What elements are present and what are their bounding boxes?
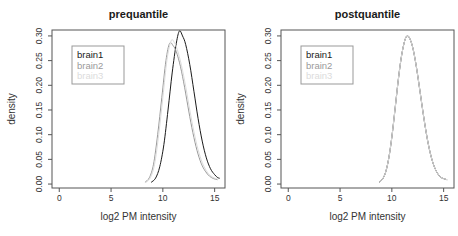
chart-title: prequantile <box>109 8 168 20</box>
legend-label-brain1: brain1 <box>77 49 103 60</box>
legend-label-brain2: brain2 <box>306 60 332 71</box>
y-tick-label: 0.10 <box>263 126 273 143</box>
panel-postquantile: postquantile0510150.000.050.100.150.200.… <box>229 0 458 236</box>
legend-label-brain3: brain3 <box>306 70 332 81</box>
postquantile-chart: postquantile0510150.000.050.100.150.200.… <box>229 0 458 236</box>
y-tick-label: 0.25 <box>263 52 273 69</box>
panel-prequantile: prequantile0510150.000.050.100.150.200.2… <box>0 0 229 236</box>
y-tick-label: 0.10 <box>34 126 44 143</box>
x-tick-label: 15 <box>439 193 449 203</box>
y-tick-label: 0.20 <box>34 77 44 94</box>
x-tick-label: 0 <box>286 193 291 203</box>
y-tick-label: 0.15 <box>34 101 44 118</box>
y-axis-label: density <box>235 93 246 125</box>
y-tick-label: 0.00 <box>34 176 44 193</box>
legend-label-brain2: brain2 <box>77 60 103 71</box>
y-tick-label: 0.30 <box>263 27 273 44</box>
x-tick-label: 0 <box>57 193 62 203</box>
y-tick-label: 0.00 <box>263 176 273 193</box>
density-figure: prequantile0510150.000.050.100.150.200.2… <box>0 0 458 236</box>
y-tick-label: 0.25 <box>34 52 44 69</box>
x-tick-label: 10 <box>387 193 397 203</box>
density-curve-brain2 <box>379 36 446 182</box>
y-tick-label: 0.05 <box>263 151 273 168</box>
x-tick-label: 5 <box>109 193 114 203</box>
y-tick-label: 0.20 <box>263 77 273 94</box>
prequantile-chart: prequantile0510150.000.050.100.150.200.2… <box>0 0 229 236</box>
y-axis-label: density <box>6 93 17 125</box>
x-tick-label: 5 <box>338 193 343 203</box>
legend-label-brain3: brain3 <box>77 70 103 81</box>
y-tick-label: 0.30 <box>34 27 44 44</box>
x-tick-label: 10 <box>158 193 168 203</box>
y-tick-label: 0.05 <box>34 151 44 168</box>
legend-label-brain1: brain1 <box>306 49 332 60</box>
chart-title: postquantile <box>335 8 400 20</box>
y-tick-label: 0.15 <box>263 101 273 118</box>
density-curve-brain1 <box>379 36 446 182</box>
density-curve-brain3 <box>379 36 446 182</box>
x-axis-label: log2 PM intensity <box>329 211 405 222</box>
x-tick-label: 15 <box>210 193 220 203</box>
x-axis-label: log2 PM intensity <box>100 211 176 222</box>
